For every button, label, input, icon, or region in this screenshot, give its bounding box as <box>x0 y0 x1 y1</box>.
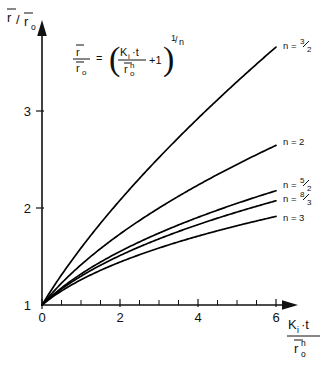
y-axis-title-r0: r <box>24 14 29 29</box>
series-label-n-8-3-prefix: n = <box>283 193 297 204</box>
equation-lhs-denominator: r <box>76 62 80 74</box>
x-axis-title-K: K <box>288 317 297 332</box>
y-axis-title-subscript: o <box>31 22 36 32</box>
series-label-n-5-2-numerator: 5 <box>300 176 305 185</box>
x-axis-title-K-subscript: i <box>297 325 299 335</box>
series-label-n-3: n = 3 <box>283 212 304 223</box>
equation-inner-r-subscript: o <box>130 69 135 78</box>
y-ticklabel-2: 2 <box>24 201 31 216</box>
series-label-n-3-2-prefix: n = <box>283 40 297 51</box>
x-axis-title-r-superscript: n <box>301 338 306 348</box>
series-label-n-3-2-denominator: 2 <box>307 45 312 54</box>
x-axis-title-r-subscript: o <box>301 349 306 359</box>
y-ticklabel-1: 1 <box>24 298 31 313</box>
x-axis-title-dot-t: ·t <box>301 317 309 332</box>
equation-lhs-denominator-subscript: o <box>82 68 87 77</box>
y-axis-title-r: r <box>7 10 12 25</box>
equation-paren-close: ) <box>163 40 174 78</box>
series-label-n-3-2-numerator: 3 <box>300 37 305 46</box>
y-axis-title-slash: / <box>16 12 20 27</box>
series-label-n-5-2-denominator: 2 <box>307 184 312 193</box>
equation-inner-K: K <box>120 46 128 58</box>
equation-inner-r-superscript: n <box>130 61 134 70</box>
y-ticklabel-3: 3 <box>24 104 31 119</box>
equation-lhs-numerator: r <box>76 46 80 58</box>
x-ticklabel-4: 4 <box>194 310 201 325</box>
x-ticklabel-0: 0 <box>38 310 45 325</box>
equation-inner-r: r <box>124 63 128 75</box>
x-axis-title-r: r <box>294 341 299 356</box>
series-label-n-2: n = 2 <box>283 136 304 147</box>
equation-paren-open: ( <box>109 40 120 78</box>
chart-svg: 1 2 3 0 2 4 6 r / r o K i ·t r o n <box>0 0 327 371</box>
equation-inner-dot-t: ·t <box>132 46 139 58</box>
equation-plus-one: +1 <box>149 54 162 66</box>
equation-exponent-denominator: n <box>179 37 184 47</box>
x-ticklabel-2: 2 <box>116 310 123 325</box>
x-ticklabel-6: 6 <box>272 310 279 325</box>
chart-figure: 1 2 3 0 2 4 6 r / r o K i ·t r o n <box>0 0 327 371</box>
equation-equals-sign: = <box>96 52 102 64</box>
series-label-n-8-3-numerator: 8 <box>300 190 305 199</box>
series-label-n-8-3-denominator: 3 <box>307 198 312 207</box>
series-label-n-5-2-prefix: n = <box>283 179 297 190</box>
